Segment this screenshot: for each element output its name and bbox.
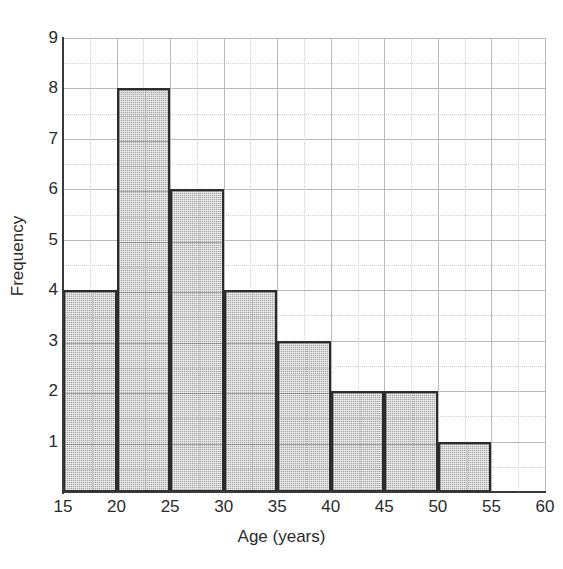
- histogram-bar: [384, 391, 438, 492]
- bar-internal-grid: [172, 191, 222, 490]
- y-axis-tick-label: 7: [32, 130, 58, 147]
- gridline-horizontal-major: [440, 444, 490, 445]
- x-axis-tick-label: 55: [471, 497, 511, 517]
- gridline-horizontal-minor: [386, 469, 436, 470]
- gridline-horizontal-major: [65, 343, 115, 344]
- gridline-horizontal-major: [119, 242, 169, 243]
- gridline-horizontal-major: [386, 393, 436, 394]
- gridline-horizontal-minor: [226, 418, 276, 419]
- plot-area: [63, 38, 545, 492]
- gridline-horizontal-major: [226, 393, 276, 394]
- gridline-horizontal-major: [333, 393, 383, 394]
- x-axis-tick-label: 40: [311, 497, 351, 517]
- gridline-horizontal-minor: [172, 317, 222, 318]
- gridline-horizontal-minor: [172, 418, 222, 419]
- gridline-vertical-minor: [413, 393, 414, 490]
- gridline-horizontal-major: [226, 444, 276, 445]
- histogram-figure: Frequency 987654321 15202530354045505560…: [0, 0, 563, 569]
- gridline-horizontal-major: [279, 444, 329, 445]
- gridline-horizontal-minor: [119, 469, 169, 470]
- histogram-bar: [224, 290, 278, 492]
- bar-internal-grid: [65, 292, 115, 490]
- gridline-horizontal-minor: [119, 418, 169, 419]
- gridline-horizontal-major: [119, 90, 169, 91]
- gridline-horizontal-minor: [172, 267, 222, 268]
- gridline-horizontal-major: [172, 191, 222, 192]
- gridline-horizontal-minor: [119, 267, 169, 268]
- gridline-horizontal-major: [65, 292, 115, 293]
- gridline-vertical-minor: [360, 393, 361, 490]
- gridline-horizontal-minor: [119, 116, 169, 117]
- histogram-bar: [331, 391, 385, 492]
- bar-internal-grid: [226, 292, 276, 490]
- histogram-bar: [277, 341, 331, 492]
- gridline-vertical-minor: [306, 343, 307, 490]
- x-axis-tick-label: 30: [204, 497, 244, 517]
- x-axis-tick-label: 20: [97, 497, 137, 517]
- histogram-bar: [63, 290, 117, 492]
- y-axis-tick-label: 5: [32, 231, 58, 248]
- gridline-vertical-minor: [92, 292, 93, 490]
- gridline-horizontal-minor: [279, 368, 329, 369]
- gridline-horizontal-major: [226, 343, 276, 344]
- gridline-horizontal-minor: [226, 368, 276, 369]
- y-axis-tick-labels: 987654321: [24, 0, 58, 569]
- gridline-vertical-major: [545, 38, 546, 492]
- x-axis-tick-label: 35: [257, 497, 297, 517]
- gridline-vertical-major: [119, 90, 120, 490]
- x-axis-line: [62, 491, 546, 493]
- gridline-horizontal-minor: [119, 317, 169, 318]
- y-axis-tick-label: 3: [32, 332, 58, 349]
- x-axis-title: Age (years): [0, 527, 563, 547]
- gridline-vertical-major: [279, 343, 280, 490]
- gridline-horizontal-minor: [65, 317, 115, 318]
- gridline-horizontal-minor: [172, 368, 222, 369]
- histogram-bar: [438, 442, 492, 492]
- gridline-vertical-minor: [252, 292, 253, 490]
- gridline-horizontal-minor: [226, 469, 276, 470]
- x-axis-tick-labels: 15202530354045505560: [0, 497, 563, 523]
- gridline-horizontal-minor: [279, 469, 329, 470]
- gridline-horizontal-major: [279, 343, 329, 344]
- gridline-horizontal-minor: [440, 469, 490, 470]
- gridline-horizontal-major: [65, 393, 115, 394]
- bars-layer: [63, 38, 545, 492]
- gridline-vertical-major: [386, 393, 387, 490]
- y-axis-line: [62, 37, 64, 494]
- gridline-horizontal-major: [172, 444, 222, 445]
- gridline-horizontal-major: [65, 444, 115, 445]
- gridline-horizontal-major: [119, 393, 169, 394]
- gridline-vertical-minor: [467, 444, 468, 490]
- y-axis-tick-label: 1: [32, 433, 58, 450]
- gridline-horizontal-minor: [65, 469, 115, 470]
- gridline-vertical-minor: [145, 90, 146, 490]
- gridline-horizontal-minor: [386, 418, 436, 419]
- gridline-horizontal-minor: [119, 217, 169, 218]
- gridline-horizontal-major: [119, 343, 169, 344]
- gridline-horizontal-minor: [172, 469, 222, 470]
- y-axis-tick-label: 9: [32, 29, 58, 46]
- gridline-horizontal-minor: [119, 166, 169, 167]
- histogram-bar: [170, 189, 224, 492]
- gridline-horizontal-major: [119, 292, 169, 293]
- x-axis-tick-label: 15: [43, 497, 83, 517]
- gridline-vertical-minor: [199, 191, 200, 490]
- gridline-horizontal-minor: [333, 469, 383, 470]
- gridline-vertical-major: [226, 292, 227, 490]
- gridline-horizontal-minor: [333, 418, 383, 419]
- gridline-horizontal-major: [172, 292, 222, 293]
- gridline-horizontal-minor: [65, 368, 115, 369]
- x-axis-tick-label: 60: [525, 497, 563, 517]
- y-axis-tick-label: 4: [32, 281, 58, 298]
- gridline-horizontal-minor: [279, 418, 329, 419]
- y-axis-tick-label: 8: [32, 79, 58, 96]
- histogram-bar: [117, 88, 171, 492]
- gridline-horizontal-major: [279, 393, 329, 394]
- gridline-horizontal-major: [119, 141, 169, 142]
- gridline-vertical-major: [333, 393, 334, 490]
- gridline-vertical-major: [172, 191, 173, 490]
- gridline-vertical-major: [440, 444, 441, 490]
- x-axis-tick-label: 25: [150, 497, 190, 517]
- y-axis-tick-label: 2: [32, 382, 58, 399]
- bar-internal-grid: [279, 343, 329, 490]
